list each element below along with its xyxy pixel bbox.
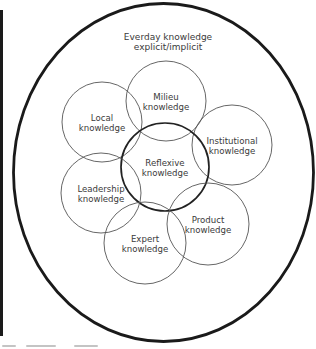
knowledge-diagram: Everday knowledge explicit/implicit Mili… — [0, 0, 316, 349]
expert-label-line2: knowledge — [122, 244, 169, 254]
institutional-label-line1: Institutional — [206, 136, 257, 146]
leadership-label-line2: knowledge — [78, 194, 125, 204]
outer-title-line2: explicit/implicit — [134, 42, 203, 52]
local-label-line1: Local — [91, 113, 113, 123]
milieu-label-line1: Milieu — [153, 92, 178, 102]
leadership-label-line1: Leadership — [77, 184, 124, 194]
product-label-line2: knowledge — [185, 225, 232, 235]
product-label-line1: Product — [192, 215, 225, 225]
institutional-label-line2: knowledge — [209, 146, 256, 156]
reflexive-label-line2: knowledge — [142, 168, 189, 178]
outer-title-line1: Everday knowledge — [124, 32, 213, 42]
local-label-line2: knowledge — [79, 123, 126, 133]
source-caption-cropped — [2, 343, 102, 349]
reflexive-label-line1: Reflexive — [145, 158, 184, 168]
milieu-label-line2: knowledge — [143, 102, 190, 112]
expert-label-line1: Expert — [131, 234, 160, 244]
